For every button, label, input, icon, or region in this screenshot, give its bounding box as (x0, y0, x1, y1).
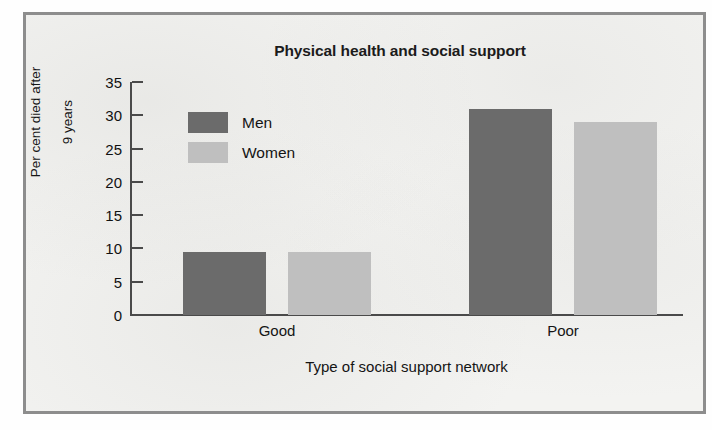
bar-poor-men (469, 109, 552, 315)
x-axis-label: Type of social support network (130, 358, 683, 375)
chart-title: Physical health and social support (130, 42, 670, 60)
y-axis-label: Per cent died after 9 years (12, 67, 76, 177)
y-tick-label-10: 10 (78, 240, 122, 257)
bar-good-women (288, 252, 371, 315)
y-axis-label-wrapper: Per cent died after 9 years (22, 32, 66, 212)
bar-poor-women (574, 122, 657, 315)
chart-legend: Men Women (188, 112, 295, 172)
y-tick-label-5: 5 (78, 273, 122, 290)
legend-item-women: Women (188, 142, 295, 163)
y-tick-label-15: 15 (78, 207, 122, 224)
legend-label-men: Men (242, 114, 272, 132)
x-axis-category-label-good: Good (183, 322, 371, 339)
x-axis-category-label-poor: Poor (470, 322, 656, 339)
y-tick-label-25: 25 (78, 140, 122, 157)
bar-good-men (183, 252, 266, 315)
legend-swatch-women-icon (188, 142, 228, 163)
legend-item-men: Men (188, 112, 295, 133)
legend-swatch-men-icon (188, 112, 228, 133)
legend-label-women: Women (242, 144, 295, 162)
y-tick-label-20: 20 (78, 173, 122, 190)
y-axis-label-line2: 9 years (60, 100, 75, 144)
y-tick-label-35: 35 (78, 74, 122, 91)
y-tick-label-30: 30 (78, 107, 122, 124)
figure-canvas: Physical health and social support Per c… (0, 0, 712, 430)
y-tick-label-0: 0 (78, 307, 122, 324)
y-axis-label-line1: Per cent died after (28, 67, 43, 177)
